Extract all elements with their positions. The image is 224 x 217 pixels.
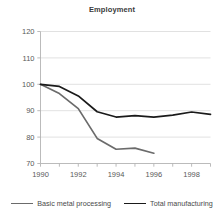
plot-area: 708090100110120 19901992199419961998 — [0, 0, 224, 190]
x-tick-label: 1994 — [108, 170, 125, 179]
y-tick-label: 110 — [23, 54, 35, 63]
x-tick-label: 1992 — [70, 170, 87, 179]
x-axis-tick-labels: 19901992199419961998 — [32, 170, 200, 179]
x-tick-label: 1996 — [145, 170, 162, 179]
y-tick-label: 80 — [26, 133, 34, 142]
y-tick-label: 100 — [22, 80, 35, 89]
series-line-total-manufacturing — [41, 84, 211, 117]
legend-label: Total manufacturing — [150, 200, 213, 207]
y-tick-label: 90 — [26, 106, 34, 115]
legend-label: Basic metal processing — [37, 200, 111, 207]
x-tick-label: 1990 — [32, 170, 49, 179]
data-series-lines — [41, 84, 211, 153]
x-axis-ticks — [37, 32, 210, 167]
y-axis-tick-labels: 708090100110120 — [22, 27, 35, 168]
y-tick-label: 120 — [22, 27, 35, 36]
gridlines — [41, 32, 211, 138]
series-line-basic-metal-processing — [41, 84, 154, 153]
legend-item-1[interactable]: Total manufacturing — [124, 200, 213, 207]
chart-legend: Basic metal processingTotal manufacturin… — [0, 193, 224, 215]
chart-figure: Employment 708090100110120 1990199219941… — [0, 0, 224, 217]
legend-item-0[interactable]: Basic metal processing — [11, 200, 111, 207]
x-tick-label: 1998 — [183, 170, 200, 179]
legend-line-swatch — [11, 203, 33, 204]
axis-lines — [41, 32, 211, 164]
legend-line-swatch — [124, 203, 146, 204]
y-tick-label: 70 — [26, 159, 34, 168]
plot-svg: 708090100110120 19901992199419961998 — [0, 0, 224, 190]
